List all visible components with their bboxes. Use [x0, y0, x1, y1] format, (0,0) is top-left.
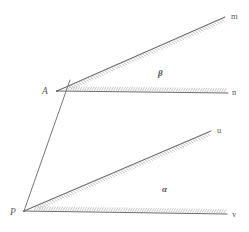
hatch-tick [44, 207, 46, 211]
hatch-tick [118, 87, 120, 91]
hatch-tick [104, 178, 107, 181]
hatch-tick [111, 208, 113, 212]
hatch-tick [79, 82, 82, 85]
angle-label-beta: β [157, 68, 163, 78]
hatch-tick [190, 33, 193, 36]
hatch-tick [145, 208, 147, 212]
hatch-tick [181, 209, 183, 213]
hatch-tick [133, 58, 136, 61]
hatch-tick [176, 88, 178, 92]
hatch-tick [162, 46, 165, 48]
hatch-tick [202, 88, 204, 92]
hatch-tick [219, 88, 221, 92]
hatch-tick [92, 87, 94, 91]
hatch-tick [102, 179, 105, 182]
hatch-tick [95, 75, 98, 78]
hatch-tick [202, 209, 204, 213]
hatch-tick [97, 87, 99, 91]
hatch-tick [140, 55, 143, 58]
hatch-tick [178, 209, 180, 213]
hatch-tick [64, 195, 67, 198]
hatch-tick [155, 156, 158, 159]
hatch-tick [68, 207, 70, 211]
hatch-tick [80, 188, 83, 191]
hatch-tick [159, 87, 161, 91]
hatch-tick [149, 208, 151, 212]
hatch-tick [59, 197, 62, 200]
hatch-tick [91, 77, 94, 80]
hatch-tick [75, 207, 77, 211]
hatch-tick [224, 88, 226, 92]
hatch-tick [157, 155, 160, 158]
hatch-tick [173, 208, 175, 212]
hatch-tick [86, 79, 89, 81]
hatch-tick [190, 88, 192, 92]
hatch-tick [87, 207, 89, 211]
hatch-tick [190, 209, 192, 213]
hatch-tick [188, 209, 190, 213]
hatch-tick [152, 50, 155, 53]
hatch-tick [174, 88, 176, 92]
hatch-tick [174, 40, 177, 42]
hatch-tick [212, 88, 214, 92]
lower-angle-group: P u v α [9, 125, 237, 219]
hatch-tick [221, 19, 224, 21]
hatch-tick [49, 207, 51, 211]
hatch-tick [83, 187, 86, 190]
hatch-tick [219, 209, 221, 213]
hatch-tick [207, 134, 210, 137]
hatch-tick [135, 208, 137, 212]
hatch-tick [70, 207, 72, 211]
hatch-tick [193, 88, 195, 92]
hatch-tick [57, 198, 60, 201]
hatch-tick [97, 181, 100, 184]
hatch-tick [193, 140, 196, 143]
hatch-tick [150, 158, 153, 161]
hatch-tick [200, 88, 202, 92]
hatch-tick [61, 207, 63, 211]
hatch-tick [75, 86, 77, 90]
hatch-tick [137, 208, 139, 212]
hatch-tick [166, 151, 169, 154]
hatch-tick [94, 207, 96, 211]
hatch-tick [164, 152, 167, 155]
hatch-tick [169, 88, 171, 92]
hatch-tick [100, 73, 103, 75]
hatch-tick [164, 45, 167, 48]
hatch-tick [131, 166, 134, 169]
hatch-tick [195, 31, 198, 34]
hatch-tick [169, 43, 172, 46]
hatch-tick [179, 38, 182, 41]
hatch-tick [159, 208, 161, 212]
hatch-tick [169, 208, 171, 212]
hatch-tick [205, 135, 208, 138]
hatch-tick [112, 68, 115, 70]
hatch-tick [147, 208, 149, 212]
hatch-tick [90, 184, 93, 187]
hatch-tick [129, 60, 132, 63]
hatch-tick [118, 208, 120, 212]
hatch-tick [143, 161, 146, 164]
hatch-tick [154, 87, 156, 91]
hatch-tick [157, 87, 159, 91]
hatch-tick [164, 87, 166, 91]
hatch-tick [45, 203, 48, 206]
hatch-tick [66, 194, 69, 197]
hatch-tick [74, 84, 77, 86]
hatch-tick [89, 207, 91, 211]
hatch-tick [107, 70, 110, 73]
hatch-tick [92, 207, 94, 211]
hatch-tick [51, 207, 53, 211]
hatch-tick [209, 25, 212, 27]
hatch-tick [161, 208, 163, 212]
hatch-tick [200, 209, 202, 213]
hatch-tick [111, 87, 113, 91]
hatch-tick [85, 207, 87, 211]
hatch-tick [195, 88, 197, 92]
hatch-tick [52, 200, 55, 203]
hatch-tick [56, 207, 58, 211]
hatch-tick [88, 78, 91, 80]
hatch-tick [104, 87, 106, 91]
hatch-tick [160, 47, 163, 49]
hatch-tick [76, 190, 79, 193]
